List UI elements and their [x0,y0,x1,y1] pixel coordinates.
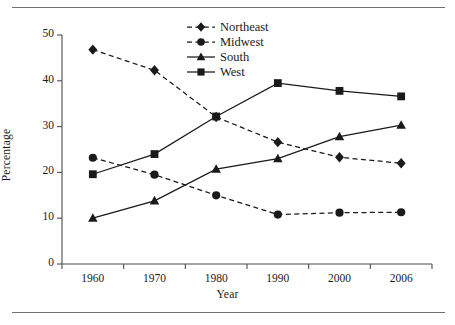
data-point-square-marker [89,170,97,178]
series-south [88,120,406,222]
data-point-diamond-marker [273,137,282,147]
data-point-diamond-marker [150,65,159,75]
legend-item-midwest: Midwest [186,34,269,49]
x-axis-title: Year [0,288,455,300]
legend-item-label: West [220,65,245,79]
y-tick-label: 20 [12,164,54,176]
series-line [93,83,401,174]
data-point-circle-marker [212,191,220,199]
legend-item-south: South [186,49,269,64]
diamond-marker [186,20,216,34]
data-point-diamond-marker [88,44,97,54]
data-point-square-marker [274,79,282,87]
chart-legend: NortheastMidwestSouthWest [186,19,269,79]
y-tick-label: 0 [12,256,54,268]
x-tick-label: 1980 [186,272,246,284]
y-tick-label: 40 [12,73,54,85]
data-point-circle-marker [335,209,343,217]
figure-container: 50403020100 196019701980199020002006 Per… [0,0,455,325]
data-point-circle-marker [89,154,97,162]
x-tick-label: 1990 [248,272,308,284]
x-tick-label: 1960 [63,272,123,284]
x-tick-label: 2000 [310,272,370,284]
y-axis-ticks [57,35,62,264]
x-axis-ticks [62,264,432,269]
legend-item-west: West [186,64,269,79]
y-axis-title: Percentage [0,122,12,188]
data-point-circle-marker [274,210,282,218]
data-point-circle-marker [397,208,405,216]
data-point-square-marker [336,87,344,95]
legend-item-label: Midwest [220,35,264,49]
triangle-marker [186,50,216,64]
series-west [89,79,405,178]
data-point-circle-marker [150,171,158,179]
x-tick-label: 2006 [371,272,431,284]
y-tick-label: 30 [12,119,54,131]
x-tick-label: 1970 [125,272,185,284]
data-point-triangle-marker [396,120,406,129]
circle-marker [186,35,216,49]
legend-item-label: South [220,50,249,64]
square-marker [186,65,216,79]
data-point-diamond-marker [397,158,406,168]
data-point-square-marker [212,113,220,121]
legend-item-label: Northeast [220,20,269,34]
legend-item-northeast: Northeast [186,19,269,34]
series-line [93,125,401,218]
data-point-square-marker [151,150,159,158]
data-point-diamond-marker [335,152,344,162]
y-tick-label: 10 [12,210,54,222]
data-point-triangle-marker [150,196,160,205]
y-tick-label: 50 [12,27,54,39]
series-line [93,158,401,215]
data-point-square-marker [397,92,405,100]
